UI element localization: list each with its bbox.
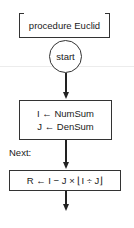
connector-start-to-init bbox=[65, 73, 67, 93]
procedure-box-corner-left bbox=[19, 13, 24, 14]
connector-remainder-out bbox=[65, 191, 67, 205]
init-assignment-box: I ← NumSum J ← DenSum bbox=[19, 100, 112, 140]
assign-i-line: I ← NumSum bbox=[37, 107, 94, 120]
remainder-formula-box: R ← I − J × ⌊I ÷ J⌋ bbox=[9, 170, 121, 191]
remainder-formula: R ← I − J × ⌊I ÷ J⌋ bbox=[27, 175, 104, 186]
start-label: start bbox=[56, 51, 74, 62]
connector-init-to-remainder bbox=[65, 140, 67, 163]
start-terminal: start bbox=[49, 40, 82, 73]
arrow-down-icon bbox=[63, 204, 69, 211]
procedure-title: procedure Euclid bbox=[29, 20, 100, 31]
arrow-down-icon bbox=[63, 92, 69, 99]
procedure-box-corner-right bbox=[105, 13, 110, 14]
next-label: Next: bbox=[9, 147, 31, 158]
procedure-header-box: procedure Euclid bbox=[19, 13, 110, 38]
arrow-down-icon bbox=[63, 162, 69, 169]
assign-j-line: J ← DenSum bbox=[37, 120, 94, 133]
